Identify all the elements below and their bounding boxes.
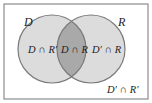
- label-r: R: [117, 15, 126, 29]
- region-both: D ∩ R: [60, 44, 88, 55]
- region-r-only: D′ ∩ R: [91, 44, 122, 55]
- label-d: D: [23, 15, 33, 29]
- venn-svg: D R D ∩ R′ D ∩ R D′ ∩ R D′ ∩ R′: [0, 0, 152, 103]
- region-neither: D′ ∩ R′: [106, 84, 139, 95]
- region-d-only: D ∩ R′: [27, 44, 58, 55]
- venn-diagram: D R D ∩ R′ D ∩ R D′ ∩ R D′ ∩ R′: [0, 0, 152, 103]
